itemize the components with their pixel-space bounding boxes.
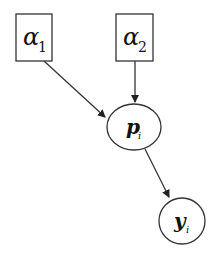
node-y-i-subscript: i bbox=[186, 224, 189, 235]
node-alpha2-symbol: α bbox=[123, 23, 139, 51]
node-alpha2-subscript: 2 bbox=[138, 39, 147, 55]
node-alpha1: α 1 bbox=[16, 14, 52, 61]
node-y-i-symbol: y bbox=[173, 209, 187, 233]
node-alpha1-subscript: 1 bbox=[38, 39, 47, 55]
node-alpha2: α 2 bbox=[116, 14, 153, 61]
edge-alpha1-to-p bbox=[44, 61, 105, 117]
graphical-model-diagram: α 1 α 2 p i y i bbox=[0, 0, 221, 254]
node-p-i: p i bbox=[107, 104, 161, 150]
node-p-i-subscript: i bbox=[138, 130, 141, 141]
node-alpha1-symbol: α bbox=[23, 23, 39, 51]
node-y-i: y i bbox=[159, 198, 205, 244]
edge-p-to-y bbox=[145, 149, 169, 197]
